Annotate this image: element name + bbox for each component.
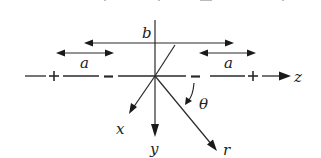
x-axis-label: x <box>116 120 125 138</box>
theta-label: θ <box>199 95 208 113</box>
a-left-label: a <box>80 54 89 72</box>
y-axis-label: y <box>149 140 159 158</box>
a-right-label: a <box>224 54 233 72</box>
theta-angle-arc <box>185 83 194 105</box>
r-vector-arrow <box>155 76 217 151</box>
charge-right-outer-plus <box>248 71 258 81</box>
charge-left-outer-plus <box>49 71 59 81</box>
b-dimension-arrow <box>84 40 234 47</box>
x-axis-back-line <box>155 45 175 76</box>
charge-configuration-diagram: b a a z x <box>0 0 321 158</box>
b-label: b <box>142 24 152 42</box>
x-axis-arrow <box>129 76 155 114</box>
z-axis-label: z <box>293 68 302 86</box>
y-axis-arrow <box>151 76 159 137</box>
r-vector-label: r <box>223 141 231 158</box>
